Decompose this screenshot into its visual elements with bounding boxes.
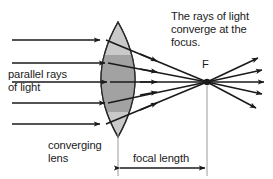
diverging-ray-4 — [207, 82, 262, 94]
diverging-ray-5 — [207, 82, 256, 108]
diverging-ray-2 — [207, 70, 262, 82]
focal-point-dot — [204, 79, 210, 85]
label-parallel-rays: parallel rays of light — [8, 68, 67, 94]
refracted-arrow-5 — [140, 103, 157, 110]
caption-rays-converge: The rays of light converge at the focus. — [171, 10, 249, 50]
label-focal-length: focal length — [133, 152, 189, 165]
label-converging-lens: converging lens — [48, 139, 102, 165]
refracted-ray-arrowheads — [140, 54, 157, 110]
label-focus-point-f: F — [202, 58, 209, 71]
refracted-arrow-1 — [140, 54, 157, 61]
diverging-rays — [207, 58, 264, 108]
refracted-arrow-2 — [140, 69, 157, 72]
lens-diagram: The rays of light converge at the focus.… — [0, 0, 273, 179]
diverging-ray-1 — [207, 58, 258, 82]
